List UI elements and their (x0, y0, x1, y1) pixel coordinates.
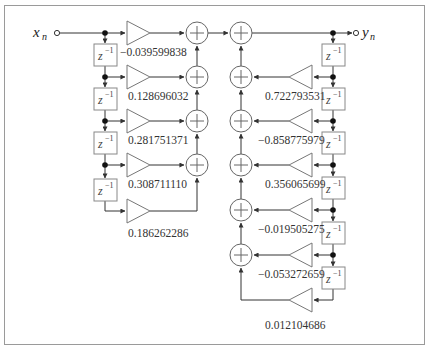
adders (186, 22, 252, 266)
coef-b3: 0.308711110 (128, 178, 187, 190)
output-label: y (360, 24, 369, 40)
svg-text:z: z (97, 137, 103, 151)
svg-text:z: z (97, 184, 103, 198)
coef-a3: 0.356065699 (265, 178, 326, 190)
svg-text:z: z (325, 93, 331, 107)
coef-a2: −0.858775979 (258, 134, 325, 146)
svg-text:z: z (325, 137, 331, 151)
input-label: x (32, 24, 40, 40)
coef-b4: 0.186262286 (128, 227, 189, 239)
input-terminal (54, 30, 59, 35)
output-terminal (353, 30, 358, 35)
svg-text:−1: −1 (333, 90, 342, 99)
coef-a5: −0.053272659 (258, 268, 325, 280)
coef-a1: 0.722793531 (265, 90, 326, 102)
output-subscript: n (370, 31, 375, 42)
svg-text:z: z (97, 49, 103, 63)
adder-plus-signs (190, 26, 248, 262)
svg-text:−1: −1 (333, 179, 342, 188)
svg-text:−1: −1 (333, 269, 342, 278)
coef-b0: −0.039599838 (120, 46, 187, 58)
coef-b1: 0.128696032 (128, 90, 189, 102)
svg-text:z: z (325, 272, 331, 286)
svg-text:−1: −1 (105, 181, 114, 190)
svg-text:z: z (325, 49, 331, 63)
input-subscript: n (42, 31, 47, 42)
coef-a4: −0.019505275 (258, 223, 325, 235)
svg-text:−1: −1 (333, 224, 342, 233)
svg-text:z: z (325, 227, 331, 241)
filter-diagram: x n y n (0, 0, 431, 353)
coef-b2: 0.281751371 (128, 134, 189, 146)
svg-text:z: z (325, 182, 331, 196)
svg-text:−1: −1 (105, 134, 114, 143)
svg-text:z: z (97, 93, 103, 107)
svg-text:−1: −1 (333, 134, 342, 143)
svg-text:−1: −1 (333, 46, 342, 55)
svg-text:−1: −1 (105, 46, 114, 55)
coef-a6: 0.012104686 (265, 319, 326, 331)
svg-text:−1: −1 (105, 90, 114, 99)
